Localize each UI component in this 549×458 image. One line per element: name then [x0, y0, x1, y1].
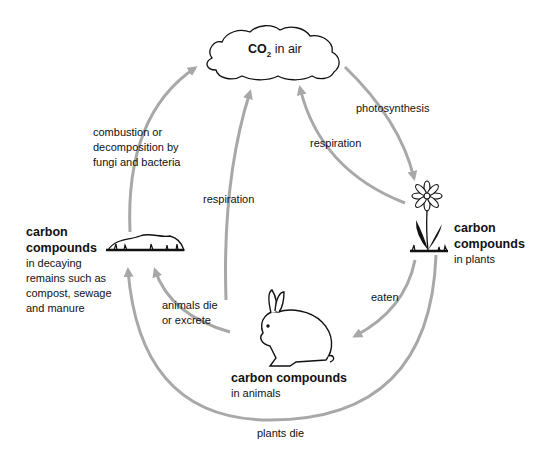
plants-title-1: carbon — [454, 220, 525, 236]
label-eaten: eaten — [371, 290, 399, 305]
label-plants-die: plants die — [257, 426, 304, 441]
node-plants: carbon compounds in plants — [454, 220, 525, 267]
label-animals-die: animals die or excrete — [162, 298, 218, 328]
co2-formula: CO — [248, 42, 267, 56]
node-decaying-remains: carbon compounds in decaying remains suc… — [26, 224, 112, 316]
decay-title-1: carbon — [26, 224, 112, 240]
decay-desc-3: compost, sewage — [26, 286, 112, 301]
rabbit-icon — [261, 290, 334, 366]
animals-die-line-2: or excrete — [162, 313, 218, 328]
label-respiration-animals: respiration — [203, 192, 254, 207]
decay-desc-1: in decaying — [26, 256, 112, 271]
co2-label: in air — [271, 42, 302, 56]
compost-mound-icon — [106, 235, 184, 250]
plants-desc: in plants — [454, 252, 525, 267]
animals-die-line-1: animals die — [162, 298, 218, 313]
node-co2-in-air: CO2 in air — [248, 42, 302, 59]
label-combustion: combustion or decomposition by fungi and… — [93, 125, 180, 170]
label-respiration-plants: respiration — [310, 136, 361, 151]
decay-title-2: compounds — [26, 240, 112, 256]
node-animals: carbon compounds in animals — [231, 370, 347, 401]
combustion-line-2: decomposition by — [93, 140, 180, 155]
combustion-line-1: combustion or — [93, 125, 180, 140]
animals-desc: in animals — [231, 386, 347, 401]
animals-title: carbon compounds — [231, 370, 347, 386]
label-photosynthesis: photosynthesis — [356, 101, 429, 116]
combustion-line-3: fungi and bacteria — [93, 155, 180, 170]
decay-desc-2: remains such as — [26, 271, 112, 286]
flower-icon — [410, 181, 448, 251]
decay-desc-4: and manure — [26, 301, 112, 316]
plants-title-2: compounds — [454, 236, 525, 252]
